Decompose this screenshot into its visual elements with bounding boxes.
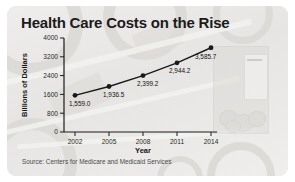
chart-plot-area: 0 800 1600 2400 3200 4000 Billions of Do… bbox=[17, 32, 229, 154]
y-axis-title: Billions of Dollars bbox=[20, 53, 29, 117]
y-tick-label-3200: 3200 bbox=[43, 53, 58, 60]
y-tick-label-4000: 4000 bbox=[43, 34, 58, 41]
data-label-2008: 2,399.2 bbox=[137, 80, 159, 87]
infographic-card: Health Care Costs on the Rise 0 800 1600… bbox=[7, 6, 288, 176]
y-tick-label-800: 800 bbox=[47, 110, 58, 117]
data-label-2002: 1,559.0 bbox=[69, 100, 91, 107]
x-tick-label-2011: 2011 bbox=[170, 138, 185, 145]
x-tick-label-2014: 2014 bbox=[204, 138, 219, 145]
y-tick-label-1600: 1600 bbox=[43, 91, 58, 98]
x-tick-label-2005: 2005 bbox=[102, 138, 117, 145]
data-line-series bbox=[75, 48, 211, 96]
data-point-2011 bbox=[175, 60, 180, 65]
x-tick-label-2008: 2008 bbox=[136, 138, 151, 145]
page-title: Health Care Costs on the Rise bbox=[21, 14, 229, 31]
source-note: Source: Centers for Medicare and Medicai… bbox=[22, 158, 172, 165]
data-label-2011: 2,944.2 bbox=[169, 67, 191, 74]
line-chart-svg: 0 800 1600 2400 3200 4000 Billions of Do… bbox=[17, 32, 229, 154]
data-point-2002 bbox=[73, 93, 78, 98]
y-tick-label-2400: 2400 bbox=[43, 72, 58, 79]
data-label-2005: 1,936.5 bbox=[103, 91, 125, 98]
data-label-2014: 3,585.7 bbox=[195, 53, 217, 60]
y-tick-label-0: 0 bbox=[54, 128, 58, 135]
data-point-2008 bbox=[141, 73, 146, 78]
x-axis-ticks bbox=[75, 132, 211, 136]
x-tick-label-2002: 2002 bbox=[68, 138, 83, 145]
data-point-2014 bbox=[209, 45, 214, 50]
data-point-2005 bbox=[107, 84, 112, 89]
jar-label-line bbox=[247, 59, 262, 61]
x-axis-title: Year bbox=[135, 146, 151, 154]
